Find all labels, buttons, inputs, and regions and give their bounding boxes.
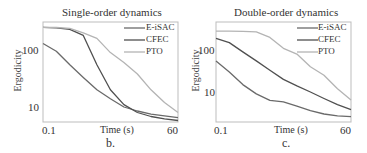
legend-cfec: CFEC <box>146 34 169 44</box>
legend-e-isac: E-iSAC <box>318 22 347 32</box>
y-axis-label: Ergodicity <box>12 49 23 91</box>
panel-label: c. <box>282 136 290 151</box>
y-tick-10: 10 <box>28 101 39 113</box>
chart-double-order: Double-order dynamics Ergodicity 100 10 … <box>184 0 367 153</box>
x-axis-label: Time (s) <box>100 124 134 135</box>
x-tick-start: 0.1 <box>42 124 56 136</box>
panel-label: b. <box>106 136 115 151</box>
x-tick-end: 60 <box>167 124 178 136</box>
legend-pto: PTO <box>318 46 335 56</box>
chart-title: Double-order dynamics <box>234 6 338 18</box>
x-axis-label: Time (s) <box>274 124 308 135</box>
y-tick-100: 100 <box>22 44 39 56</box>
x-tick-end: 60 <box>340 124 351 136</box>
y-tick-10: 10 <box>204 86 215 98</box>
chart-single-order: Single-order dynamics Ergodicity 100 10 … <box>0 0 183 153</box>
chart-title: Single-order dynamics <box>62 6 162 18</box>
legend-pto: PTO <box>146 46 163 56</box>
series-line-e-isac <box>216 61 351 117</box>
legend-cfec: CFEC <box>318 34 341 44</box>
y-tick-100: 100 <box>198 44 215 56</box>
legend-e-isac: E-iSAC <box>146 22 175 32</box>
x-tick-start: 0.1 <box>214 124 228 136</box>
